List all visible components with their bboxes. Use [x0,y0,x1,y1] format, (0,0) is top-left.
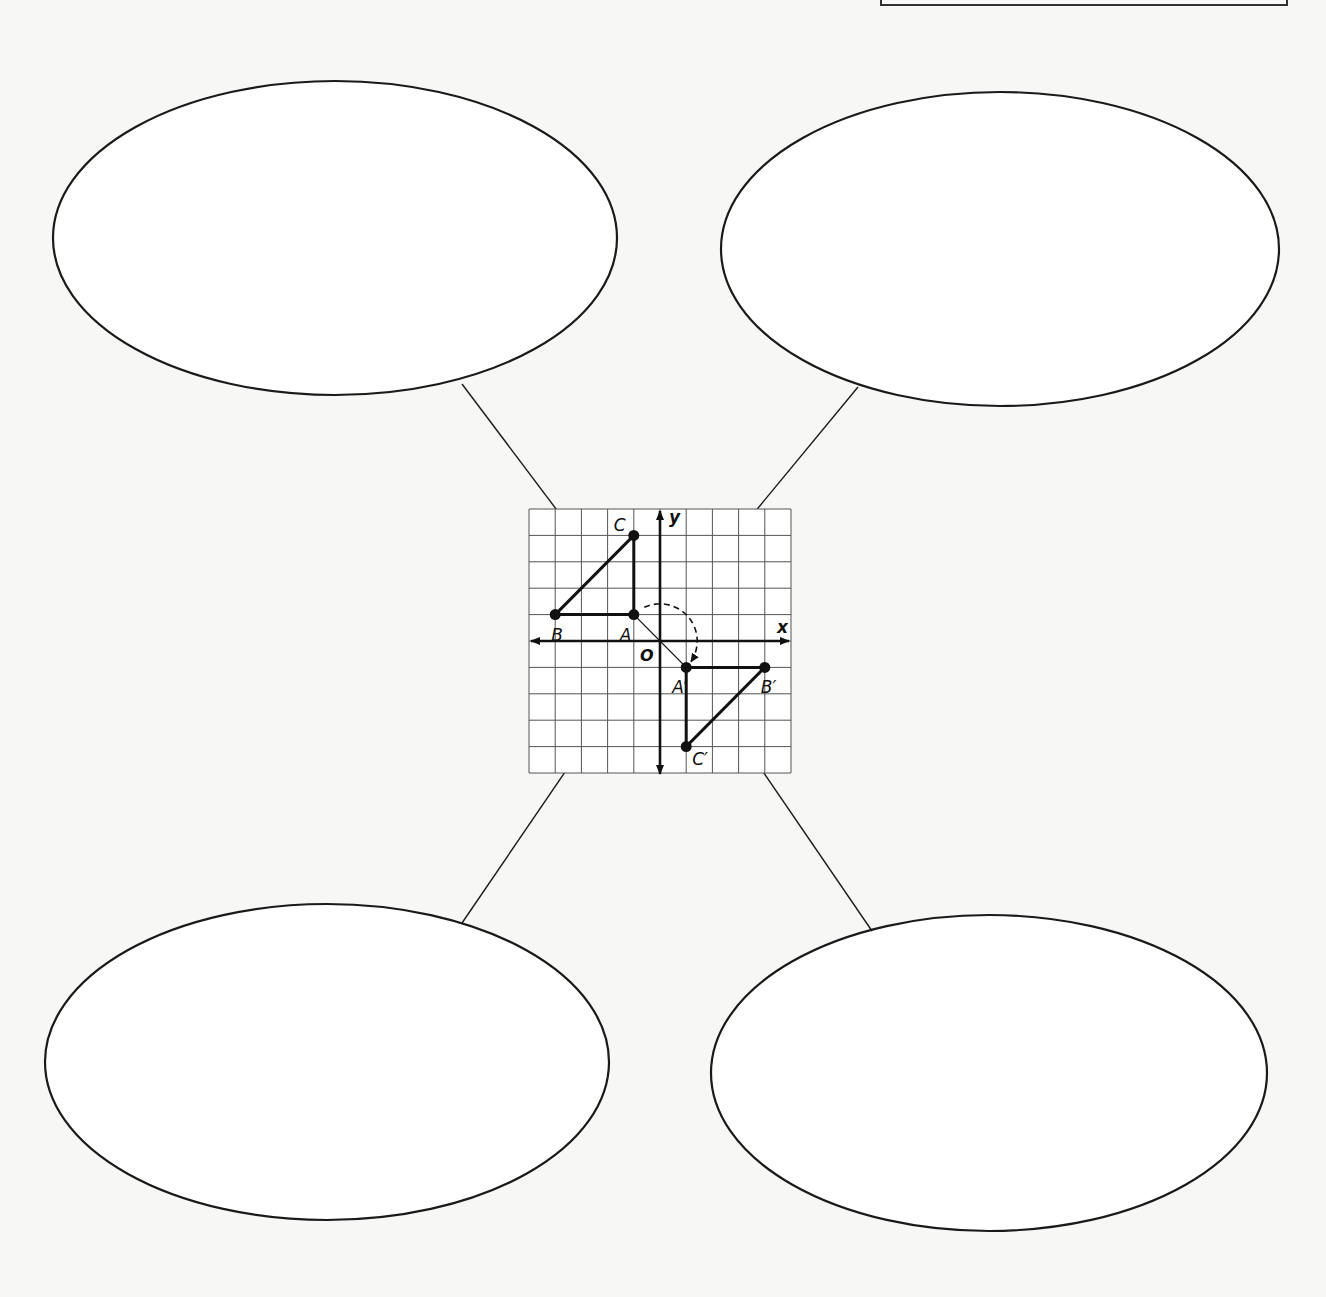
x-axis-label: x [776,617,789,637]
graphic-organizer: ABCA′B′C′ x y O [0,0,1326,1297]
point-preimage-0 [628,609,639,620]
point-label-preimage-2: C [614,515,626,535]
bubble-top-left[interactable] [53,81,617,395]
point-image-2 [681,741,692,752]
point-image-1 [759,662,770,673]
point-label-image-2: C′ [692,749,708,769]
point-label-preimage-0: A [619,625,632,645]
point-preimage-2 [628,530,639,541]
bubble-bottom-left[interactable] [45,904,609,1220]
bubble-bottom-right[interactable] [711,915,1267,1231]
y-axis-label: y [669,507,681,527]
point-image-0 [681,662,692,673]
point-label-image-1: B′ [761,677,777,697]
point-label-image-0: A′ [671,677,688,697]
coordinate-graph: ABCA′B′C′ x y O [529,507,791,774]
origin-label: O [640,646,654,665]
point-label-preimage-1: B [551,625,563,645]
point-preimage-1 [550,609,561,620]
bubble-top-right[interactable] [721,92,1279,406]
